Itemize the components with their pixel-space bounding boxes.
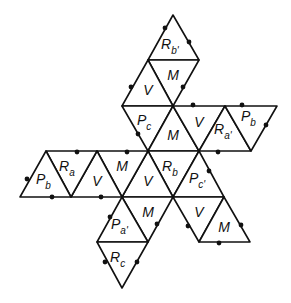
edge-marker-dot [129,85,134,90]
icosahedron-net-diagram: Rb'MVPcMVRa'PbRbVMVRaPbPc'MPa'RcVM [0,0,291,303]
edge-marker-dot [163,26,168,31]
edge-marker-dot [103,260,108,265]
edge-marker-dot [239,223,244,228]
edge-marker-dot [240,103,245,108]
face-label: M [167,127,179,143]
edge-marker-dot [207,169,212,174]
edge-marker-dot [187,40,192,45]
face-label: M [116,158,128,174]
face-label-subscript: a' [120,225,129,236]
face-label: M [167,67,179,83]
edge-marker-dot [264,123,269,128]
face-label-subscript: c' [198,179,206,190]
face-label: M [218,219,230,235]
face-label-subscript: a' [224,130,233,141]
edge-marker-dot [191,103,196,108]
edge-marker-dot [136,132,141,137]
edge-marker-dot [155,222,160,227]
edge-marker-dot [75,150,80,155]
face-label-subscript: b [45,180,51,191]
edge-marker-dot [25,177,30,182]
edge-marker-dot [125,150,130,155]
face-label-subscript: a [69,167,75,178]
edge-marker-dot [50,195,55,200]
face-label-subscript: b [250,117,256,128]
edge-marker-dot [217,241,222,246]
face-label-subscript: b' [171,45,180,56]
edge-marker-dot [181,85,186,90]
edge-marker-dot [186,224,191,229]
face-label: M [142,204,154,220]
edge-marker-dot [216,150,221,155]
faces-group [20,15,277,288]
face-label-subscript: b [172,167,178,178]
face-label-subscript: c [146,121,151,132]
edge-marker-dot [99,195,104,200]
face-label-subscript: c [120,258,125,269]
edge-marker-dot [135,260,140,265]
